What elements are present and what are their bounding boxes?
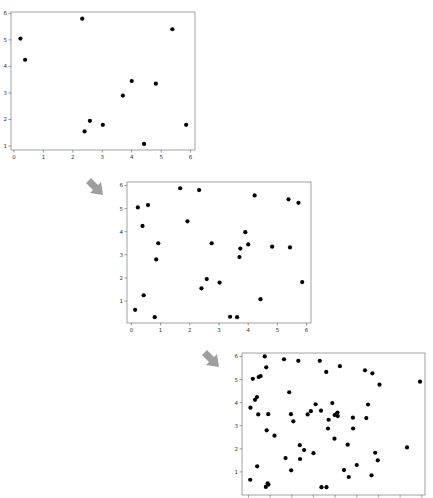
data-point <box>272 434 276 438</box>
down-right-arrow-icon <box>200 348 222 374</box>
x-tick-label: 3 <box>217 327 221 333</box>
y-tick-label: 5 <box>4 37 8 43</box>
data-point <box>255 464 259 468</box>
data-point <box>246 242 250 246</box>
data-point <box>178 186 182 190</box>
data-point <box>248 478 252 482</box>
data-point <box>332 437 336 441</box>
x-tick-label: 4 <box>130 154 134 160</box>
data-point <box>373 451 377 455</box>
data-point <box>351 426 355 430</box>
y-tick-label: 5 <box>235 377 239 383</box>
data-point <box>154 257 158 261</box>
data-point <box>266 412 270 416</box>
data-point <box>327 418 331 422</box>
data-point <box>210 241 214 245</box>
x-tick-label: 6 <box>189 154 193 160</box>
data-point <box>314 402 318 406</box>
data-point <box>283 456 287 460</box>
data-point <box>296 359 300 363</box>
data-point <box>217 280 221 284</box>
data-point <box>287 390 291 394</box>
data-point <box>184 123 188 127</box>
data-point <box>259 374 263 378</box>
data-point <box>369 473 373 477</box>
scatter-plot-2: 0123456123456 <box>115 176 315 344</box>
data-point <box>376 458 380 462</box>
data-point <box>101 123 105 127</box>
x-tick-label: 2 <box>188 327 192 333</box>
data-point <box>318 359 322 363</box>
x-tick-label: 6 <box>305 327 309 333</box>
data-point <box>142 142 146 146</box>
y-tick-label: 4 <box>4 63 8 69</box>
data-point <box>256 412 260 416</box>
data-point <box>300 280 304 284</box>
data-point <box>370 371 374 375</box>
y-tick-label: 2 <box>235 446 239 452</box>
y-tick-label: 3 <box>4 90 8 96</box>
scatter-plot-1: 0123456123456 <box>0 4 198 168</box>
data-point <box>235 315 239 319</box>
data-point <box>289 468 293 472</box>
data-point <box>237 255 241 259</box>
data-point <box>364 416 368 420</box>
data-point <box>146 203 150 207</box>
data-point <box>338 364 342 368</box>
y-tick-label: 3 <box>120 252 124 258</box>
data-point <box>405 445 409 449</box>
plot-frame <box>242 353 425 495</box>
y-tick-label: 5 <box>120 206 124 212</box>
data-point <box>346 443 350 447</box>
data-point <box>133 308 137 312</box>
scatter-plot-3: 123456 <box>228 349 433 498</box>
data-point <box>319 409 323 413</box>
data-point <box>248 406 252 410</box>
data-point <box>366 402 370 406</box>
x-tick-label: 0 <box>130 327 134 333</box>
y-tick-label: 1 <box>235 469 239 475</box>
plot-frame <box>127 182 311 323</box>
data-point <box>289 412 293 416</box>
data-point <box>185 219 189 223</box>
data-point <box>199 286 203 290</box>
data-point <box>88 119 92 123</box>
y-tick-label: 4 <box>120 229 124 235</box>
x-tick-label: 5 <box>276 327 280 333</box>
data-point <box>258 297 262 301</box>
data-point <box>243 230 247 234</box>
y-tick-label: 2 <box>4 116 8 122</box>
data-point <box>142 293 146 297</box>
y-tick-label: 3 <box>235 423 239 429</box>
data-point <box>238 246 242 250</box>
data-point <box>298 457 302 461</box>
y-tick-label: 2 <box>120 275 124 281</box>
data-point <box>286 197 290 201</box>
data-point <box>255 395 259 399</box>
data-point <box>80 17 84 21</box>
data-point <box>153 315 157 319</box>
x-tick-label: 3 <box>101 154 105 160</box>
x-tick-label: 0 <box>12 154 16 160</box>
data-point <box>306 412 310 416</box>
data-point <box>156 241 160 245</box>
plot-frame <box>11 12 195 150</box>
data-point <box>418 380 422 384</box>
data-point <box>154 82 158 86</box>
data-point <box>136 205 140 209</box>
y-tick-label: 6 <box>4 10 8 16</box>
data-point <box>363 368 367 372</box>
data-point <box>330 401 334 405</box>
data-point <box>270 245 274 249</box>
x-tick-label: 1 <box>159 327 163 333</box>
data-point <box>298 443 302 447</box>
data-point <box>324 370 328 374</box>
data-point <box>347 475 351 479</box>
data-point <box>296 201 300 205</box>
data-point <box>197 188 201 192</box>
data-point <box>264 365 268 369</box>
data-point <box>253 193 257 197</box>
y-tick-label: 6 <box>235 353 239 359</box>
data-point <box>228 315 232 319</box>
data-point <box>336 414 340 418</box>
